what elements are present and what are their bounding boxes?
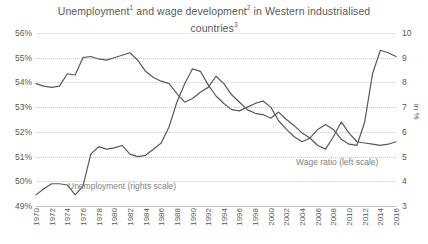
- unemployment-label: Unemployment (rights scale): [68, 181, 176, 191]
- chart-container: Unemployment1 and wage development2 in W…: [0, 0, 428, 244]
- series-line-wage-ratio: [36, 53, 396, 149]
- wage-ratio-label: Wage ratio (left scale): [296, 157, 378, 167]
- plot-lines: [0, 0, 428, 244]
